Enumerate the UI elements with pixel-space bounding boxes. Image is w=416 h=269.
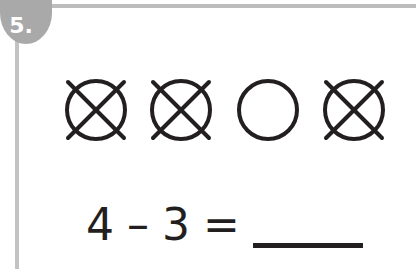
- equation-minus-operator: –: [127, 199, 149, 250]
- counter-1-crossed: [60, 58, 132, 162]
- counter-2-crossed: [145, 58, 217, 162]
- circle-crossed-icon: [60, 58, 132, 162]
- counters-row: [60, 58, 405, 162]
- counter-3-plain: [232, 58, 304, 162]
- circle-crossed-icon: [145, 58, 217, 162]
- top-divider-rule: [0, 4, 416, 8]
- problem-number-label: 5.: [0, 12, 42, 40]
- equation-equals-sign: =: [203, 199, 240, 250]
- circle-crossed-icon: [318, 58, 390, 162]
- worksheet-problem: 5.: [0, 0, 416, 269]
- answer-blank-line[interactable]: [253, 243, 363, 248]
- equation-subtrahend: 3: [162, 199, 190, 250]
- counter-4-crossed: [318, 58, 390, 162]
- equation-minuend: 4: [86, 199, 114, 250]
- circle-icon: [232, 58, 304, 162]
- left-margin-rule: [15, 30, 19, 269]
- equation: 4 – 3 =: [86, 196, 240, 252]
